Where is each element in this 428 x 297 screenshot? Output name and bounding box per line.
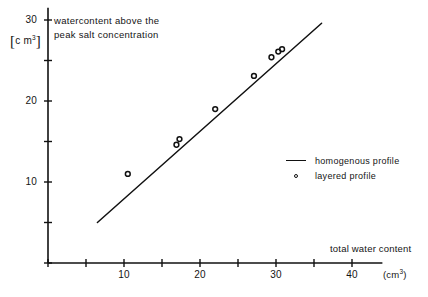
homogenous-profile-line (97, 23, 321, 222)
legend-circle-icon (283, 174, 309, 178)
layered-profile-points (125, 47, 284, 177)
legend-label-homogenous-profile: homogenous profile (309, 156, 399, 166)
x-axis-title: total water content (330, 243, 411, 254)
x-tick-label-20: 20 (188, 269, 212, 280)
legend-item-layered-profile: layered profile (283, 168, 399, 183)
y-tick-label-30: 30 (15, 14, 37, 25)
axes (48, 8, 382, 263)
chart-page: [c m3] watercontent above the peak salt … (0, 0, 428, 297)
header-note-line-2: peak salt concentration (54, 28, 159, 42)
x-axis-unit-prefix: (cm (383, 269, 399, 280)
header-note-line-1: watercontent above the (54, 14, 159, 28)
legend-label-layered-profile: layered profile (309, 171, 376, 181)
x-axis-unit-label: (cm3) (383, 268, 407, 280)
y-tick-label-10: 10 (15, 176, 37, 187)
x-tick-label-30: 30 (264, 269, 288, 280)
y-axis-unit-text: c m (15, 35, 32, 46)
chart-header-note: watercontent above the peak salt concent… (54, 14, 159, 41)
legend-line-icon (283, 160, 309, 161)
legend-item-homogenous-profile: homogenous profile (283, 153, 399, 168)
x-tick-label-40: 40 (340, 269, 364, 280)
axis-ticks (44, 20, 352, 267)
bracket-close-icon: ] (36, 33, 41, 49)
x-axis-unit-suffix: ) (403, 269, 406, 280)
chart-legend: homogenous profile layered profile (283, 153, 399, 183)
x-tick-label-10: 10 (112, 269, 136, 280)
y-axis-unit-label: [c m3] (10, 33, 41, 50)
y-tick-label-20: 20 (15, 95, 37, 106)
